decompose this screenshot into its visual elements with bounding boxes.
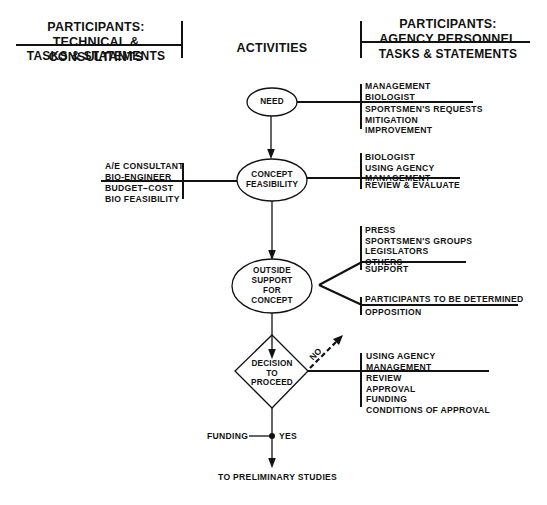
list-item: LEGISLATORS <box>365 246 472 257</box>
feasibility-technical-tasks: BUDGET–COST BIO FEASIBILITY <box>105 183 180 204</box>
yes-branch-label: YES <box>279 431 297 442</box>
support-participants: PRESS SPORTSMEN'S GROUPS LEGISLATORS OTH… <box>365 225 472 267</box>
node-concept-line1: CONCEPT <box>237 170 307 180</box>
node-concept-feasibility: CONCEPT FEASIBILITY <box>237 170 307 190</box>
node-outside-line3: FOR <box>232 286 312 296</box>
next-step-label: TO PRELIMINARY STUDIES <box>218 472 337 483</box>
list-item: USING AGENCY <box>365 163 435 174</box>
node-concept-line2: FEASIBILITY <box>237 180 307 190</box>
opposition-tasks: OPPOSITION <box>365 307 421 318</box>
node-decision-line1: DECISION <box>237 359 307 369</box>
node-decision-line2: TO <box>237 369 307 379</box>
list-item: SUPPORT <box>365 264 409 275</box>
node-outside-line1: OUTSIDE <box>232 266 312 276</box>
list-item: OPPOSITION <box>365 307 421 318</box>
list-item: FUNDING <box>366 394 490 405</box>
list-item: BUDGET–COST <box>105 183 180 194</box>
list-item: A/E CONSULTANT <box>105 161 184 172</box>
need-agency-tasks: SPORTSMEN'S REQUESTS MITIGATION IMPROVEM… <box>365 104 483 136</box>
funding-label: FUNDING <box>207 431 248 442</box>
decision-agency-tasks: REVIEW APPROVAL FUNDING CONDITIONS OF AP… <box>366 373 490 415</box>
list-item: BIO-ENGINEER <box>105 172 184 183</box>
list-item: BIO FEASIBILITY <box>105 194 180 205</box>
header-activities: ACTIVITIES <box>232 41 312 56</box>
list-item: PRESS <box>365 225 472 236</box>
node-need: NEED <box>247 97 297 107</box>
list-item: USING AGENCY <box>366 351 436 362</box>
list-item: BIOLOGIST <box>365 152 435 163</box>
list-item: IMPROVEMENT <box>365 125 483 136</box>
node-outside-line2: SUPPORT <box>232 276 312 286</box>
header-right-subtitle: TASKS & STATEMENTS <box>362 47 534 61</box>
list-item: MANAGEMENT <box>366 362 436 373</box>
node-outside-support: OUTSIDE SUPPORT FOR CONCEPT <box>232 266 312 306</box>
list-item: MITIGATION <box>365 115 483 126</box>
header-right: PARTICIPANTS: AGENCY PERSONNEL <box>362 17 534 47</box>
list-item: APPROVAL <box>366 384 490 395</box>
decision-agency-participants: USING AGENCY MANAGEMENT <box>366 351 436 372</box>
opposition-participants: PARTICIPANTS TO BE DETERMINED <box>365 294 524 305</box>
feasibility-technical-participants: A/E CONSULTANT BIO-ENGINEER <box>105 161 184 182</box>
list-item: MANAGEMENT <box>365 81 431 92</box>
list-item: SPORTSMEN'S GROUPS <box>365 236 472 247</box>
list-item: SPORTSMEN'S REQUESTS <box>365 104 483 115</box>
node-decision-line3: PROCEED <box>237 378 307 388</box>
list-item: BIOLOGIST <box>365 92 431 103</box>
feasibility-agency-tasks: REVIEW & EVALUATE <box>365 180 460 191</box>
support-tasks: SUPPORT <box>365 264 409 275</box>
list-item: PARTICIPANTS TO BE DETERMINED <box>365 294 524 305</box>
list-item: CONDITIONS OF APPROVAL <box>366 405 490 416</box>
header-right-title-line1: PARTICIPANTS: <box>362 17 534 32</box>
node-decision: DECISION TO PROCEED <box>237 359 307 388</box>
list-item: REVIEW <box>366 373 490 384</box>
need-agency-participants: MANAGEMENT BIOLOGIST <box>365 81 431 102</box>
header-left-title-line1: PARTICIPANTS: <box>10 20 182 35</box>
list-item: REVIEW & EVALUATE <box>365 180 460 191</box>
header-right-title-line2: AGENCY PERSONNEL <box>362 32 534 47</box>
node-outside-line4: CONCEPT <box>232 296 312 306</box>
feasibility-agency-participants: BIOLOGIST USING AGENCY MANAGEMENT <box>365 152 435 184</box>
header-left-subtitle: TASKS & STATEMENTS <box>10 49 182 63</box>
